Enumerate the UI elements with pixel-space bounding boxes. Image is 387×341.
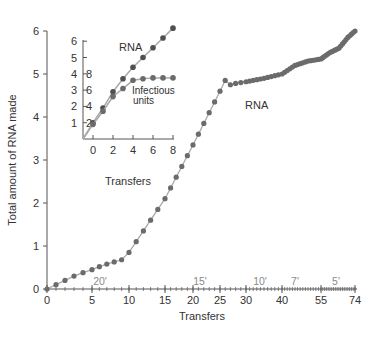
svg-text:8: 8 (170, 144, 176, 156)
svg-text:4: 4 (86, 100, 92, 112)
y-tick-label: 5 (33, 68, 39, 80)
svg-text:4: 4 (130, 144, 136, 156)
y-tick-label: 3 (33, 154, 39, 166)
x-tick-label: 10 (123, 294, 135, 306)
rna-chart: 012345605101520253040557420'15'10'7'5' 1… (0, 0, 387, 341)
y-tick-label: 4 (33, 111, 39, 123)
y-tick-label: 1 (33, 240, 39, 252)
x-tick-label: 20 (187, 294, 199, 306)
svg-text:2: 2 (110, 144, 116, 156)
svg-text:5: 5 (71, 52, 77, 64)
x-tick-label: 30 (240, 294, 252, 306)
x-tick-label: 15 (159, 294, 171, 306)
x-tick-label: 74 (349, 294, 361, 306)
inset-units-label: units (133, 95, 154, 106)
time-annotation: 15' (193, 275, 207, 287)
main-series-label: RNA (245, 99, 269, 111)
x-tick-label: 0 (44, 294, 50, 306)
main-axes: 012345605101520253040557420'15'10'7'5' (33, 25, 361, 306)
svg-text:2: 2 (71, 100, 77, 112)
svg-text:3: 3 (71, 84, 77, 96)
svg-text:6: 6 (71, 35, 77, 47)
inset-rna-label: RNA (119, 41, 143, 53)
x-tick-label: 55 (315, 294, 327, 306)
inset-x-axis-label: Transfers (105, 175, 152, 187)
y-axis-label: Total amount of RNA made (6, 94, 18, 225)
svg-text:6: 6 (150, 144, 156, 156)
svg-text:8: 8 (86, 68, 92, 80)
svg-text:6: 6 (86, 84, 92, 96)
x-axis-label: Transfers (179, 310, 226, 322)
svg-text:1: 1 (71, 117, 77, 129)
time-annotation: 5' (332, 275, 340, 287)
x-tick-label: 25 (214, 294, 226, 306)
y-tick-label: 2 (33, 197, 39, 209)
svg-text:0: 0 (90, 144, 96, 156)
x-tick-label: 5 (89, 294, 95, 306)
time-annotation: 7' (291, 275, 299, 287)
y-tick-label: 0 (33, 283, 39, 295)
svg-text:4: 4 (71, 68, 77, 80)
x-tick-label: 40 (276, 294, 288, 306)
time-annotation: 10' (253, 275, 267, 287)
time-annotation: 20' (93, 275, 107, 287)
y-tick-label: 6 (33, 25, 39, 37)
